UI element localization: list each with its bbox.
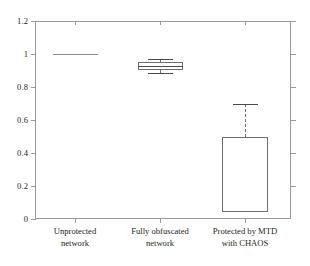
- y-axis-label-1.2: 1.2: [17, 17, 28, 26]
- y-tick-1.2: [31, 21, 36, 22]
- y-axis-label-1.0: 1: [24, 50, 28, 59]
- box-rect-mtd-chaos: [222, 137, 268, 213]
- box-plot-figure: 1.2 1 0.8 0.6 0.4 0.2 0 Unprotected netw: [0, 0, 310, 266]
- y-tick-1.0: [31, 54, 36, 55]
- y-tick-right-0.2: [291, 186, 296, 187]
- x-tick-unprotected: [75, 219, 76, 223]
- y-axis-label-0.8: 0.8: [17, 83, 28, 92]
- y-axis-label-0.6: 0.6: [17, 116, 28, 125]
- y-tick-0.4: [31, 153, 36, 154]
- y-tick-right-0.8: [291, 87, 296, 88]
- x-axis-label-mtd-chaos-line1: Protected by MTD: [213, 226, 277, 236]
- y-tick-0.6: [31, 120, 36, 121]
- box-flat-line-unprotected: [53, 54, 98, 55]
- y-axis-label-0.4: 0.4: [17, 149, 28, 158]
- y-tick-0.8: [31, 87, 36, 88]
- box-cap-lower-obfuscated: [148, 73, 173, 74]
- y-tick-right-0.4: [291, 153, 296, 154]
- y-tick-0: [31, 219, 36, 220]
- y-tick-right-1.2: [291, 21, 296, 22]
- x-axis-label-mtd-chaos-line2: with CHAOS: [191, 238, 299, 250]
- x-tick-top-mtd-chaos: [245, 21, 246, 25]
- x-tick-mtd-chaos: [245, 219, 246, 223]
- y-axis-label-0: 0: [24, 215, 28, 224]
- y-axis-label-0.2: 0.2: [17, 182, 28, 191]
- y-tick-right-1.0: [291, 54, 296, 55]
- box-cap-upper-obfuscated: [148, 59, 173, 60]
- y-tick-right-0.6: [291, 120, 296, 121]
- x-tick-top-obfuscated: [160, 21, 161, 25]
- x-tick-obfuscated: [160, 219, 161, 223]
- x-axis-label-obfuscated-line1: Fully obfuscated: [131, 226, 189, 236]
- box-median-obfuscated: [138, 66, 183, 67]
- y-tick-0.2: [31, 186, 36, 187]
- x-axis-label-unprotected-line1: Unprotected: [54, 226, 96, 236]
- x-tick-top-unprotected: [75, 21, 76, 25]
- box-whisker-upper-mtd-chaos: [245, 104, 246, 137]
- box-cap-upper-mtd-chaos: [233, 104, 258, 105]
- x-axis-label-mtd-chaos: Protected by MTD with CHAOS: [191, 226, 299, 249]
